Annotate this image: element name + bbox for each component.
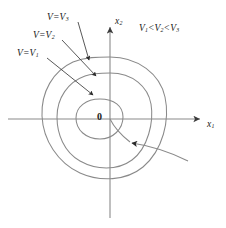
- contour-v2: [57, 73, 152, 168]
- x-axis-label: x1: [207, 120, 214, 130]
- leader-line-v3: [78, 22, 89, 60]
- trajectory-curve-inner: [110, 119, 130, 142]
- contour-v3: [42, 57, 167, 179]
- contour-label-v1: V=V1: [17, 49, 39, 59]
- contour-label-v3: V=V3: [47, 13, 69, 23]
- contour-label-v2: V=V2: [33, 31, 55, 41]
- origin-label: 0: [97, 112, 102, 122]
- inequality-annotation: V1<V2<V3: [139, 24, 179, 34]
- y-axis-label: x2: [115, 17, 122, 27]
- lyapunov-level-set-figure: V=V3 V=V2 V=V1 V1<V2<V3 x2 x1 0: [0, 0, 226, 228]
